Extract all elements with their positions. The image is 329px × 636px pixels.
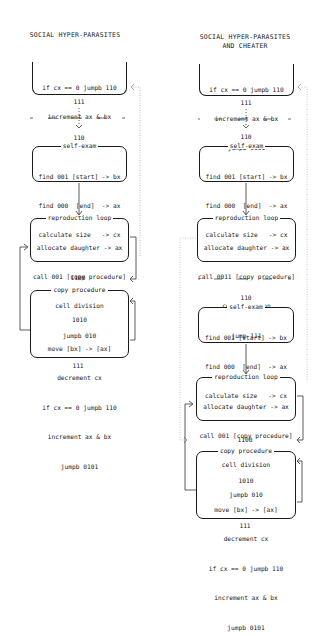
code-line: jumpb 0101 bbox=[197, 623, 295, 633]
right-arrow-icon bbox=[184, 437, 187, 443]
left-arrow-icon bbox=[298, 84, 301, 90]
down-arrow-icon bbox=[76, 125, 82, 128]
code-line: if cx == 0 jumpb 110 bbox=[197, 564, 295, 574]
down-arrow-icon bbox=[243, 125, 249, 128]
code-line: increment ax & bx bbox=[197, 593, 295, 603]
